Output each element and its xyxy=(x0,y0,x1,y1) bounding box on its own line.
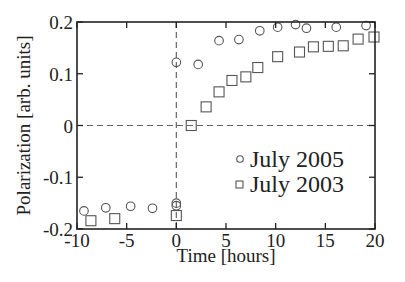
data-point-circle xyxy=(302,24,311,33)
reference-lines xyxy=(77,22,375,229)
data-point-square xyxy=(369,32,379,42)
data-point-circle xyxy=(102,203,111,212)
y-tick-label: 0 xyxy=(64,116,74,137)
data-point-circle xyxy=(255,26,264,35)
y-tick-labels: -0.2-0.100.10.2 xyxy=(43,12,73,240)
data-point-circle xyxy=(148,204,157,213)
data-point-square xyxy=(338,41,348,51)
polarization-chart: -10-505101520 -0.2-0.100.10.2 Time [hour… xyxy=(0,0,405,282)
x-axis-label: Time [hours] xyxy=(176,245,275,266)
data-point-circle xyxy=(80,207,89,216)
legend-label: July 2003 xyxy=(250,171,344,197)
data-point-square xyxy=(253,63,263,73)
circle-marker-icon xyxy=(237,156,244,163)
data-point-circle xyxy=(126,202,135,211)
legend: July 2005 July 2003 xyxy=(236,146,344,197)
y-tick-label: -0.2 xyxy=(43,219,73,240)
x-tick-label: 15 xyxy=(316,230,335,251)
y-tick-label: 0.2 xyxy=(49,12,73,33)
legend-item-july-2005: July 2005 xyxy=(237,146,344,172)
data-point-square xyxy=(308,42,318,52)
data-point-square xyxy=(295,47,305,57)
data-point-square xyxy=(110,214,120,224)
data-point-square xyxy=(323,41,333,51)
y-tick-label: 0.1 xyxy=(49,64,73,85)
legend-item-july-2003: July 2003 xyxy=(236,171,344,197)
x-tick-label: -5 xyxy=(119,230,135,251)
data-point-square xyxy=(273,52,283,62)
y-tick-label: -0.1 xyxy=(43,167,73,188)
data-point-square xyxy=(241,72,251,82)
data-point-square xyxy=(201,102,211,112)
data-point-circle xyxy=(273,23,282,32)
y-axis-label: Polarization [arb. units] xyxy=(13,36,34,216)
data-point-square xyxy=(214,87,224,97)
data-point-square xyxy=(227,75,237,85)
data-point-circle xyxy=(332,23,341,32)
x-tick-label: 20 xyxy=(366,230,385,251)
data-point-square xyxy=(86,216,96,226)
data-point-circle xyxy=(194,60,203,69)
data-point-circle xyxy=(235,35,244,44)
data-point-square xyxy=(353,34,363,44)
data-point-circle xyxy=(215,36,224,45)
square-marker-icon xyxy=(236,181,243,188)
legend-label: July 2005 xyxy=(250,146,344,172)
